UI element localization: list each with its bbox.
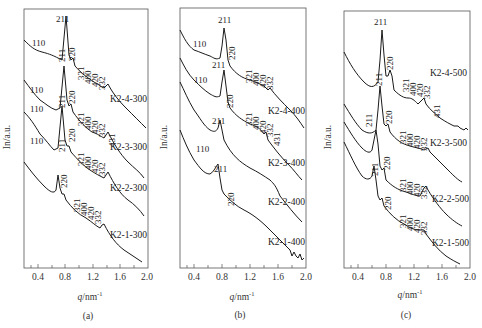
saxs-figure: 0.4 0.8 1.2 1.6 2.0 q/nm-1 (a) In/a.u. 2… — [0, 0, 482, 328]
svg-text:220: 220 — [59, 174, 69, 188]
svg-text:211: 211 — [364, 114, 374, 127]
series-label: K2-1-300 — [110, 230, 147, 240]
svg-text:431: 431 — [272, 133, 282, 147]
svg-text:211: 211 — [57, 139, 67, 152]
series-label: K2-3-400 — [268, 158, 305, 168]
svg-text:110: 110 — [32, 38, 46, 48]
svg-text:220: 220 — [67, 90, 77, 104]
svg-text:332: 332 — [97, 124, 107, 138]
xtick-label: 0.4 — [32, 272, 44, 282]
svg-text:220: 220 — [385, 56, 395, 70]
xtick-label: 0.8 — [380, 272, 392, 282]
panel-caption-a: (a) — [83, 311, 94, 322]
peak-labels-a: 211 110 220 211 321 400 420 332 110 220 … — [30, 14, 117, 224]
xtick-label: 1.6 — [114, 272, 126, 282]
svg-text:211: 211 — [57, 49, 67, 62]
svg-text:431: 431 — [432, 105, 442, 119]
y-axis-label-b: In/a.u. — [159, 125, 169, 149]
svg-text:211: 211 — [56, 14, 69, 24]
xtick-label: 1.6 — [272, 272, 284, 282]
y-axis-label-a: In/a.u. — [2, 125, 12, 149]
svg-text:110: 110 — [194, 75, 208, 85]
xtick-label: 0.8 — [216, 272, 228, 282]
svg-text:332: 332 — [419, 186, 429, 200]
svg-text:220: 220 — [225, 94, 235, 108]
panel-caption-c: (c) — [401, 310, 412, 321]
panel-c: 0.4 0.8 1.2 1.6 2.0 q/nm-1 (c) In/a.u. 2… — [323, 11, 476, 321]
svg-text:332: 332 — [97, 77, 107, 91]
svg-text:211: 211 — [370, 163, 380, 176]
svg-text:220: 220 — [67, 47, 77, 61]
series-label: K2-4-400 — [268, 106, 305, 116]
svg-text:332: 332 — [265, 77, 275, 91]
x-axis-label-b: q/nm-1 — [230, 290, 255, 302]
series-label: K2-4-300 — [110, 94, 147, 104]
svg-text:211: 211 — [212, 116, 225, 126]
svg-text:211: 211 — [214, 164, 227, 174]
xtick-label: 1.2 — [87, 272, 99, 282]
svg-text:332: 332 — [422, 86, 432, 100]
svg-text:220: 220 — [383, 196, 393, 210]
svg-text:220: 220 — [67, 128, 77, 142]
svg-text:220: 220 — [384, 110, 394, 124]
svg-text:110: 110 — [196, 144, 210, 154]
svg-text:110: 110 — [30, 85, 44, 95]
svg-text:211: 211 — [218, 15, 231, 25]
svg-text:332: 332 — [97, 163, 107, 177]
series-label: K2-2-500 — [432, 194, 469, 204]
series-label: K2-3-300 — [110, 142, 147, 152]
peak-labels-c: 211 220 211 321 400 420 332 431 211 220 … — [364, 17, 442, 235]
xtick-label: 1.2 — [408, 272, 420, 282]
series-label: K2-2-400 — [268, 197, 305, 207]
svg-text:110: 110 — [193, 39, 207, 49]
xtick-label: 0.4 — [188, 272, 200, 282]
series-label: K2-1-400 — [268, 237, 305, 247]
series-label: K2-4-500 — [430, 68, 467, 78]
x-axis-label-a: q/nm-1 — [78, 290, 103, 302]
svg-text:332: 332 — [419, 138, 429, 152]
svg-text:332: 332 — [419, 222, 429, 236]
panel-b: 0.4 0.8 1.2 1.6 2.0 q/nm-1 (b) In/a.u. 2… — [159, 8, 312, 321]
x-axis-label-c: q/nm-1 — [398, 288, 423, 300]
xtick-label: 1.2 — [244, 272, 256, 282]
x-ticks-c — [351, 264, 456, 268]
svg-text:211: 211 — [57, 95, 67, 108]
svg-text:220: 220 — [382, 156, 392, 170]
x-ticks-a — [31, 264, 134, 268]
svg-text:110: 110 — [30, 136, 44, 146]
panel-caption-b: (b) — [234, 310, 245, 321]
series-label: K2-1-500 — [432, 238, 469, 248]
svg-text:110: 110 — [30, 104, 44, 114]
xtick-label: 0.4 — [352, 272, 364, 282]
xtick-label: 2.0 — [141, 272, 153, 282]
svg-text:220: 220 — [227, 46, 237, 60]
xtick-label: 2.0 — [300, 272, 312, 282]
panel-a: 0.4 0.8 1.2 1.6 2.0 q/nm-1 (a) In/a.u. 2… — [2, 9, 153, 322]
y-axis-label-c: In/a.u. — [323, 125, 333, 149]
svg-text:220: 220 — [226, 192, 236, 206]
svg-text:211: 211 — [374, 73, 384, 86]
xtick-label: 2.0 — [464, 272, 476, 282]
series-label: K2-2-300 — [110, 183, 147, 193]
x-ticks-b — [187, 264, 292, 268]
xtick-label: 1.6 — [436, 272, 448, 282]
svg-text:211: 211 — [374, 17, 387, 27]
xtick-label: 0.8 — [59, 272, 71, 282]
svg-text:211: 211 — [212, 60, 225, 70]
svg-text:332: 332 — [93, 211, 103, 225]
series-label: K2-3-500 — [430, 138, 467, 148]
